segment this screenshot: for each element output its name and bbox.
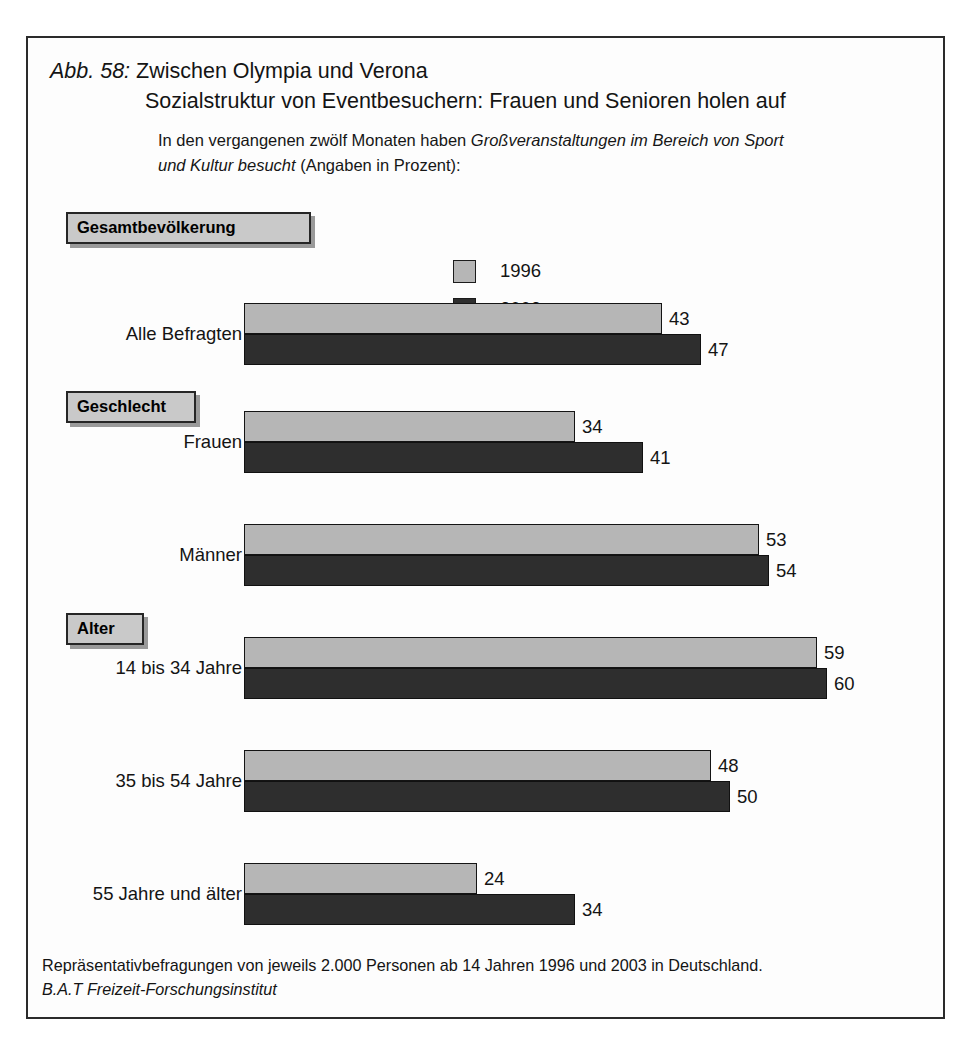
bar-value-maenner-2003: 54 <box>776 555 797 586</box>
bar-value-55-plus-1996: 24 <box>484 863 505 894</box>
bar-14-34-1996 <box>244 637 817 668</box>
bar-value-35-54-1996: 48 <box>718 750 739 781</box>
bar-35-54-1996 <box>244 750 711 781</box>
bar-value-frauen-1996: 34 <box>582 411 603 442</box>
bar-value-14-34-2003: 60 <box>834 668 855 699</box>
category-label-maenner: Männer <box>0 544 242 566</box>
bar-frauen-2003 <box>244 442 643 473</box>
bar-55-plus-1996 <box>244 863 477 894</box>
category-label-35-54: 35 bis 54 Jahre <box>0 770 242 792</box>
bar-14-34-2003 <box>244 668 827 699</box>
bar-frauen-1996 <box>244 411 575 442</box>
bar-alle-befragten-2003 <box>244 334 701 365</box>
category-label-14-34: 14 bis 34 Jahre <box>0 657 242 679</box>
bar-value-14-34-1996: 59 <box>824 637 845 668</box>
bar-value-55-plus-2003: 34 <box>582 894 603 925</box>
bar-35-54-2003 <box>244 781 730 812</box>
bar-maenner-2003 <box>244 555 769 586</box>
figure-frame: Abb. 58: Zwischen Olympia und Verona Soz… <box>26 36 945 1019</box>
bar-value-alle-befragten-1996: 43 <box>669 303 690 334</box>
footnote-text: Repräsentativbefragungen von jeweils 2.0… <box>42 953 929 977</box>
bar-55-plus-2003 <box>244 894 575 925</box>
bar-value-35-54-2003: 50 <box>737 781 758 812</box>
bar-alle-befragten-1996 <box>244 303 662 334</box>
bar-chart-plot: Alle Befragten 43 47 Frauen 34 41 Männer… <box>28 38 943 1017</box>
category-label-55-plus: 55 Jahre und älter <box>0 883 242 905</box>
bar-value-frauen-2003: 41 <box>650 442 671 473</box>
bar-maenner-1996 <box>244 524 759 555</box>
category-label-frauen: Frauen <box>0 431 242 453</box>
figure-footer: Repräsentativbefragungen von jeweils 2.0… <box>42 953 929 1001</box>
source-text: B.A.T Freizeit-Forschungsinstitut <box>42 977 929 1001</box>
bar-value-alle-befragten-2003: 47 <box>708 334 729 365</box>
bar-value-maenner-1996: 53 <box>766 524 787 555</box>
category-label-alle-befragten: Alle Befragten <box>0 323 242 345</box>
